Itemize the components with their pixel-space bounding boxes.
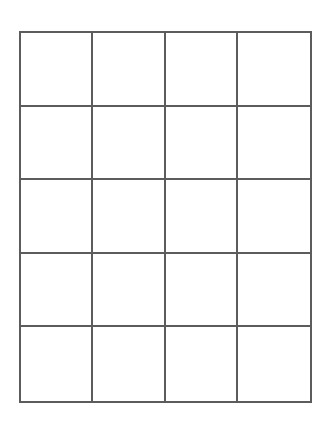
grid-cell — [238, 107, 310, 181]
grid-cell — [21, 254, 93, 328]
grid-cell — [21, 327, 93, 401]
empty-grid — [19, 31, 312, 403]
grid-cell — [238, 327, 310, 401]
grid-cell — [166, 33, 238, 107]
grid-cell — [93, 327, 165, 401]
grid-cell — [238, 254, 310, 328]
grid-cell — [93, 33, 165, 107]
grid-cell — [21, 107, 93, 181]
grid-cell — [238, 33, 310, 107]
grid-cell — [166, 180, 238, 254]
grid-cell — [238, 180, 310, 254]
grid-cell — [93, 107, 165, 181]
grid-cell — [166, 107, 238, 181]
grid-cell — [93, 254, 165, 328]
grid-cell — [21, 180, 93, 254]
grid-cell — [166, 327, 238, 401]
grid-cell — [21, 33, 93, 107]
grid-cell — [166, 254, 238, 328]
grid-cell — [93, 180, 165, 254]
